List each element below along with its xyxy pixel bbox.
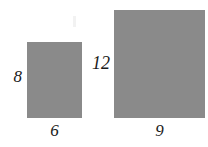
large-rectangle-shape xyxy=(114,10,205,118)
scan-artifact-mark xyxy=(73,16,76,27)
large-rectangle-width-label: 9 xyxy=(114,122,205,139)
small-rectangle-height-label: 8 xyxy=(0,68,22,85)
small-rectangle-width-label: 6 xyxy=(27,122,82,139)
large-rectangle-height-label: 12 xyxy=(86,54,110,72)
small-rectangle-shape xyxy=(27,42,82,118)
figure-canvas: 8 6 12 9 xyxy=(0,0,208,147)
